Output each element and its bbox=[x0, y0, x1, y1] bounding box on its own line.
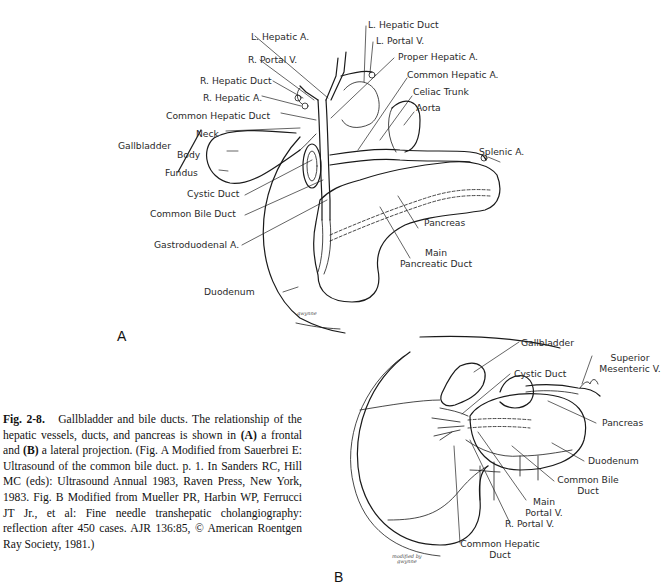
panel-letter-a: A bbox=[117, 328, 126, 344]
label-superior-mesenteric-v: Superior Mesenteric V. bbox=[586, 352, 671, 374]
label-gallbladder-a: Gallbladder bbox=[118, 140, 171, 151]
label-l-hepatic-a: L. Hepatic A. bbox=[251, 31, 309, 42]
label-main-portal-v-line2: Portal V. bbox=[525, 507, 562, 518]
label-cystic-duct-a: Cystic Duct bbox=[187, 188, 239, 199]
label-common-hepatic-a: Common Hepatic A. bbox=[407, 69, 499, 80]
panel-letter-b: B bbox=[334, 569, 343, 585]
label-pancreas-b: Pancreas bbox=[602, 417, 643, 428]
label-smv-line1: Superior bbox=[611, 352, 650, 363]
label-celiac-trunk: Celiac Trunk bbox=[413, 86, 469, 97]
caption-text-3: a lateral projection. (Fig. A Modified f… bbox=[3, 444, 302, 551]
label-aorta: Aorta bbox=[416, 102, 441, 113]
label-splenic-a: Splenic A. bbox=[479, 146, 524, 157]
label-proper-hepatic-a: Proper Hepatic A. bbox=[398, 51, 478, 62]
artist-signature-a: gwynne bbox=[297, 310, 317, 316]
label-duodenum-b: Duodenum bbox=[588, 455, 639, 466]
label-r-hepatic-duct: R. Hepatic Duct bbox=[200, 75, 272, 86]
label-chd-line1: Common Hepatic bbox=[460, 538, 540, 549]
label-gallbladder-b: Gallbladder bbox=[521, 337, 574, 348]
label-cystic-duct-b: Cystic Duct bbox=[514, 368, 566, 379]
label-main-pancreatic-duct-line1: Main bbox=[425, 247, 447, 258]
label-cbd-line2: Duct bbox=[577, 485, 599, 496]
label-fundus: Fundus bbox=[165, 167, 198, 178]
label-gastroduodenal-a: Gastroduodenal A. bbox=[154, 239, 239, 250]
label-l-hepatic-duct: L. Hepatic Duct bbox=[368, 19, 439, 30]
figure-title: Gallbladder and bile ducts. bbox=[58, 413, 188, 426]
label-main-portal-v-line1: Main bbox=[533, 496, 555, 507]
label-cbd-line1: Common Bile bbox=[557, 474, 618, 485]
label-main-pancreatic-duct-line2: Pancreatic Duct bbox=[400, 258, 472, 269]
label-common-bile-duct-a: Common Bile Duct bbox=[150, 208, 236, 219]
caption-ref-b: (B) bbox=[23, 444, 38, 457]
label-body: Body bbox=[177, 149, 200, 160]
figure-caption: Fig. 2-8. Gallbladder and bile ducts. Th… bbox=[3, 412, 302, 552]
label-r-portal-v-b: R. Portal V. bbox=[505, 518, 554, 529]
label-main-pancreatic-duct: Main Pancreatic Duct bbox=[381, 247, 491, 269]
label-common-hepatic-duct-a: Common Hepatic Duct bbox=[166, 110, 270, 121]
artist-signature-b: modified by gwynne bbox=[392, 554, 422, 564]
label-l-portal-v: L. Portal V. bbox=[376, 35, 424, 46]
figure-number: Fig. 2-8. bbox=[3, 413, 45, 426]
label-neck: Neck bbox=[196, 128, 219, 139]
label-common-bile-duct-b: Common Bile Duct bbox=[548, 474, 628, 496]
caption-ref-a: (A) bbox=[241, 429, 257, 442]
signature-b-line2: gwynne bbox=[397, 558, 417, 564]
label-pancreas-a: Pancreas bbox=[424, 217, 465, 228]
label-main-portal-v: Main Portal V. bbox=[514, 496, 574, 518]
label-common-hepatic-duct-b: Common Hepatic Duct bbox=[455, 538, 545, 560]
label-duodenum-a: Duodenum bbox=[204, 286, 255, 297]
label-r-portal-v: R. Portal V. bbox=[248, 54, 297, 65]
label-smv-line2: Mesenteric V. bbox=[599, 363, 660, 374]
label-r-hepatic-a: R. Hepatic A. bbox=[203, 92, 262, 103]
label-chd-line2: Duct bbox=[489, 549, 511, 560]
